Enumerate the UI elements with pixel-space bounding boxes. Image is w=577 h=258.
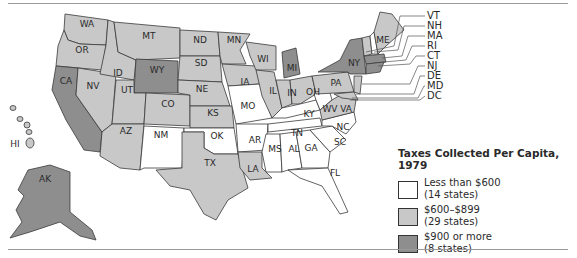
label-co: CO (161, 99, 174, 109)
label-la: LA (247, 164, 259, 174)
state-ak (10, 165, 96, 240)
label-mn: MN (227, 35, 242, 45)
legend-title: Taxes Collected Per Capita, 1979 (398, 147, 573, 171)
legend-swatch-high (398, 235, 418, 253)
bottom-rule (8, 249, 568, 250)
legend-count-low: (14 states) (424, 189, 501, 201)
label-wy: WY (150, 65, 165, 75)
label-ut: UT (121, 85, 134, 95)
legend-label-mid: $600–$899 (424, 204, 480, 216)
label-va: VA (340, 104, 353, 114)
legend-swatch-low (398, 181, 418, 199)
label-wi: WI (257, 54, 269, 64)
label-ia: IA (241, 77, 251, 87)
label-fl: FL (330, 168, 340, 178)
legend-swatch-mid (398, 208, 418, 226)
label-mi: MI (287, 63, 297, 73)
label-nm: NM (154, 130, 169, 140)
label-ne: NE (196, 84, 209, 94)
state-ct-ri (366, 62, 384, 74)
label-ca: CA (60, 76, 73, 86)
label-in: IN (287, 88, 296, 98)
legend-item-high: $900 or more (8 states) (398, 231, 573, 255)
legend-label-low: Less than $600 (424, 177, 501, 189)
label-wv: WV (322, 104, 338, 114)
label-sc: SC (334, 137, 346, 147)
label-hi: HI (10, 139, 19, 149)
label-oh: OH (306, 87, 320, 97)
state-mt (114, 22, 180, 60)
label-or: OR (75, 45, 88, 55)
state-co (144, 93, 190, 126)
label-il: IL (269, 86, 277, 96)
label-ga: GA (304, 143, 318, 153)
label-az: AZ (120, 126, 132, 136)
label-ky: KY (303, 109, 315, 119)
legend-count-mid: (29 states) (424, 216, 480, 228)
label-mt: MT (142, 31, 156, 41)
label-ks: KS (207, 108, 219, 118)
label-al: AL (288, 144, 299, 154)
map-legend: Taxes Collected Per Capita, 1979 Less th… (398, 147, 573, 258)
label-ar: AR (249, 135, 261, 145)
label-pa: PA (330, 78, 342, 88)
label-ak: AK (39, 174, 52, 184)
label-tx: TX (203, 158, 216, 168)
label-nc: NC (336, 122, 349, 132)
label-nv: NV (87, 81, 101, 91)
label-wa: WA (80, 19, 95, 29)
label-ok: OK (211, 131, 225, 141)
legend-item-mid: $600–$899 (29 states) (398, 204, 573, 228)
label-me: ME (376, 35, 390, 45)
label-nd: ND (193, 35, 207, 45)
label-tn: TN (290, 128, 303, 138)
state-nj (354, 76, 362, 94)
legend-item-low: Less than $600 (14 states) (398, 177, 573, 201)
label-ms: MS (268, 144, 282, 154)
state-ny (318, 38, 366, 74)
label-dc: DC (427, 90, 442, 101)
legend-label-high: $900 or more (424, 231, 492, 243)
label-id: ID (113, 68, 123, 78)
label-sd: SD (195, 58, 208, 68)
label-mo: MO (241, 101, 256, 111)
label-ny: NY (348, 58, 361, 68)
